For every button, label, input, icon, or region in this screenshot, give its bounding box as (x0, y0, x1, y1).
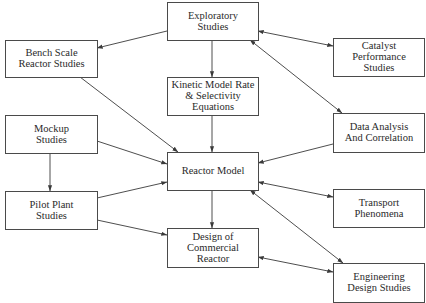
node-reactor_model: Reactor Model (168, 153, 259, 191)
edge-mockup-to-reactor_model (97, 141, 167, 164)
node-pilot: Pilot PlantStudies (6, 192, 98, 230)
edge-exploratory-to-bench (97, 31, 167, 48)
node-label: Reactor (197, 253, 230, 264)
edge-reactor_model-to-engineering (250, 190, 343, 263)
edge-data_analysis-to-reactor_model (258, 144, 333, 163)
node-label: Equations (192, 101, 234, 112)
node-label: Studies (364, 62, 395, 73)
node-exploratory: ExploratoryStudies (168, 3, 259, 41)
node-mockup: MockupStudies (6, 116, 98, 154)
node-label: Bench Scale (25, 47, 78, 58)
node-catalyst: CatalystPerformanceStudies (334, 39, 425, 77)
node-label: Pilot Plant (29, 199, 73, 210)
node-data_analysis: Data AnalysisAnd Correlation (334, 114, 425, 153)
edge-design-to-engineering (258, 257, 333, 272)
node-engineering: EngineeringDesign Studies (334, 264, 425, 303)
edge-pilot-to-reactor_model (97, 182, 167, 198)
node-label: Design Studies (347, 282, 410, 293)
flow-diagram: ExploratoryStudiesBench ScaleReactor Stu… (0, 0, 426, 303)
edge-reactor_model-to-transport (258, 182, 333, 197)
node-label: Exploratory (188, 10, 239, 21)
node-design: Design ofCommercialReactor (168, 229, 259, 268)
node-label: Data Analysis (350, 121, 409, 132)
edge-exploratory-to-data_analysis (250, 40, 342, 113)
node-label: Kinetic Model Rate (172, 79, 255, 90)
node-label: Engineering (353, 271, 405, 282)
node-label: And Correlation (345, 132, 414, 143)
node-label: Reactor Model (182, 165, 245, 176)
node-label: Design of (192, 231, 234, 242)
edge-exploratory-to-catalyst (258, 31, 333, 46)
node-label: Mockup (34, 123, 69, 134)
node-label: Studies (198, 21, 229, 32)
node-label: Studies (36, 134, 67, 145)
node-transport: TransportPhenomena (334, 190, 425, 228)
node-bench: Bench ScaleReactor Studies (6, 41, 98, 78)
node-label: Studies (36, 210, 67, 221)
edge-pilot-to-design (97, 220, 167, 235)
nodes-layer: ExploratoryStudiesBench ScaleReactor Stu… (6, 3, 425, 303)
node-label: Commercial (187, 242, 239, 253)
node-label: Transport (359, 197, 400, 208)
node-label: & Selectivity (185, 90, 241, 101)
node-label: Catalyst (362, 40, 396, 51)
node-label: Reactor Studies (18, 58, 84, 69)
node-kinetic: Kinetic Model Rate& SelectivityEquations (168, 78, 259, 116)
node-label: Phenomena (355, 208, 404, 219)
node-label: Performance (352, 51, 406, 62)
